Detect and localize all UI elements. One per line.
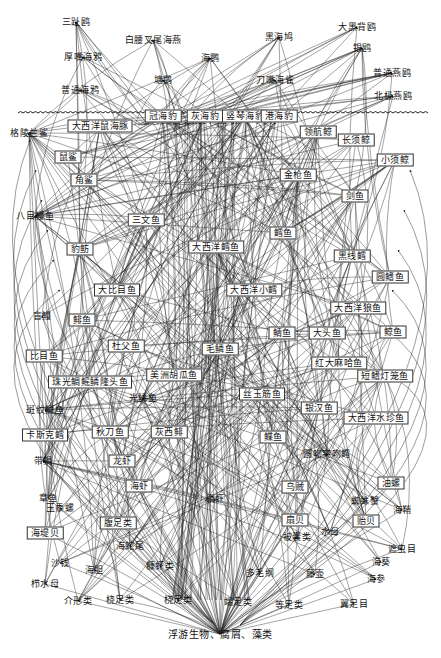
species-node-duanzulei: 端足类 (224, 597, 253, 608)
species-node-beiguan: 被囊类 (283, 532, 312, 543)
species-node-xuyu: 鲭鱼 (269, 327, 296, 340)
species-node-banwenlanyu: 斑纹鳚鱼 (26, 405, 64, 416)
species-node-wuzei: 乌贼 (282, 481, 309, 494)
species-node-zhuchong: 遮虫目 (388, 544, 417, 555)
species-node-daxiyangxiaoxue: 大西洋小鳕 (226, 284, 282, 297)
species-node-beijiyanou: 北极燕鸥 (374, 91, 412, 102)
species-node-meizhouhuguayu: 美洲胡瓜鱼 (146, 369, 202, 382)
species-node-sanzhiou: 三趾鸥 (62, 17, 91, 28)
species-node-maoxuan: 毛鳞鱼 (202, 343, 239, 356)
species-node-dabimuyu: 大比目鱼 (94, 284, 140, 297)
species-node-suoxialei: 糠虾类 (146, 561, 175, 572)
species-node-qiudaoyu: 秋刀鱼 (92, 426, 129, 439)
species-node-dufuyu: 杜父鱼 (108, 340, 145, 353)
species-node-bimuyu: 比目鱼 (26, 350, 63, 363)
species-node-daiyu: 带鲷 (34, 456, 53, 467)
species-node-huihaibao: 灰海豹 (187, 110, 224, 123)
species-node-haishen: 海参 (367, 574, 386, 585)
species-node-longxia: 龙虾 (109, 455, 136, 468)
species-node-shaqian: 沙钱 (51, 558, 70, 569)
species-node-hongdamaha: 红大麻哈鱼 (311, 357, 367, 370)
species-node-daxiyangxueyu: 大西洋鳕鱼 (188, 241, 244, 254)
species-node-daxiyangshuhaitun: 大西洋鼠海豚 (68, 120, 133, 133)
species-node-diaoyu: 鲽鱼 (260, 431, 287, 444)
species-node-putongyanou: 普通燕鸥 (373, 68, 411, 79)
species-node-kasikexueyu: 卡斯克鳕 (22, 429, 68, 442)
species-node-haishewei: 海蛇尾 (116, 541, 145, 552)
species-node-heihaiya: 黑海鸠 (265, 32, 294, 43)
species-node-youluo: 油螺 (378, 477, 405, 490)
species-node-tihu: 塘鹅 (154, 75, 173, 86)
species-node-daxiyangshuizhenyu: 大西洋水珍鱼 (344, 412, 409, 425)
species-node-datouyu: 大头鱼 (309, 327, 346, 340)
species-node-linxia: 磷虾 (206, 494, 225, 505)
species-node-haidibei: 海堤贝 (27, 527, 64, 540)
species-node-haikui: 海葵 (372, 557, 391, 568)
species-node-jinqiangyu: 金枪鱼 (280, 169, 317, 182)
species-node-daoqiao: 刀嘴海雀 (256, 75, 294, 86)
species-node-naozulei: 桡足类 (164, 595, 193, 606)
species-node-haiou: 海鹦 (201, 53, 220, 64)
species-node-shusha: 鼠鲨 (55, 151, 82, 164)
species-node-yizumu: 翼足目 (340, 599, 369, 610)
species-node-zhujiaoyu: 珠光鲷鳐鳞隆头鱼 (48, 376, 132, 389)
species-node-yinou: 银鸥 (353, 43, 372, 54)
species-node-putonghaiya: 普通海鸦 (61, 85, 99, 96)
species-node-yinhanyu: 银汉鱼 (301, 402, 338, 415)
species-node-haixia: 海虾 (126, 480, 153, 493)
species-node-xiangyu: 鲸鱼 (380, 326, 407, 339)
species-node-yibei: 贻贝 (353, 515, 380, 528)
species-node-zhuguangdenglong: 短鳍灯笼鱼 (357, 370, 413, 383)
species-node-yutailuo: 玉黍螺 (46, 503, 75, 514)
species-node-bamuman: 八目鳗鱼 (16, 211, 54, 222)
species-node-base: 浮游生物、腐屑、藻类 (168, 629, 273, 640)
species-node-baoji: 豹鲂 (67, 243, 94, 256)
species-node-zhishuimu: 栉水母 (31, 579, 60, 590)
species-node-shuimu: 水母 (321, 527, 340, 538)
species-node-ganghaibao: 港海豹 (261, 110, 298, 123)
species-node-dengzulei: 等足类 (275, 600, 304, 611)
species-node-jiexinglei: 介形类 (64, 596, 93, 607)
species-node-shuihuxie: 圆吻突吻鳕 (303, 449, 351, 460)
species-node-baiyao: 白腰叉尾海燕 (125, 35, 182, 46)
species-node-huixiyu: 灰西鲱 (151, 426, 188, 439)
species-node-haiqiao: 海鞘 (393, 505, 412, 516)
species-node-zhizhuxie: 蜘蛛蟹 (351, 496, 380, 507)
species-node-duomao: 多毛纲 (246, 568, 275, 579)
food-web-diagram: 三趾鸥白腰叉尾海燕厚嘴海鸦普通海鸦海鹦塘鹅黑海鸠刀嘴海雀大黑背鸥银鸥普通燕鸥北极… (0, 0, 441, 658)
species-node-haidan: 海胆 (85, 565, 104, 576)
species-node-fuzulei: 腹足类 (100, 517, 137, 530)
species-node-yuanqiyu: 圆鳍鱼 (372, 271, 409, 284)
species-node-ningyu: 鲱鱼 (69, 314, 96, 327)
species-node-guanhaibao: 冠海豹 (145, 110, 182, 123)
species-node-heixianxue: 黑线鳕 (334, 250, 371, 263)
species-node-xiaoxujing: 小须鲸 (377, 154, 414, 167)
species-node-daxiyanglangyu: 大西洋狼鱼 (330, 302, 386, 315)
species-node-mangman: 盲鳗 (33, 311, 52, 322)
species-node-xueyu: 鳕鱼 (270, 227, 297, 240)
species-node-gelinglan: 格陵兰鲨 (10, 128, 48, 139)
species-node-jiaosha: 角鲨 (71, 174, 98, 187)
species-node-zuohangjing: 领航鲸 (300, 126, 337, 139)
species-node-sanwenyu: 三文鱼 (128, 214, 165, 227)
species-node-guangxueyu: 光鳞鱼 (129, 393, 158, 404)
species-node-shanbei: 扇贝 (282, 514, 309, 527)
species-node-houzui: 厚嘴海鸦 (64, 52, 102, 63)
species-node-jianyu: 剑鱼 (342, 190, 369, 203)
species-node-daheibei: 大黑背鸥 (338, 22, 376, 33)
species-node-siyujinyu: 丝玉筋鱼 (239, 388, 285, 401)
species-node-sizulei: 桡足类 (106, 595, 135, 606)
species-node-tenghu: 藤壶 (306, 569, 325, 580)
species-node-changxujing: 长须鲸 (338, 134, 375, 147)
